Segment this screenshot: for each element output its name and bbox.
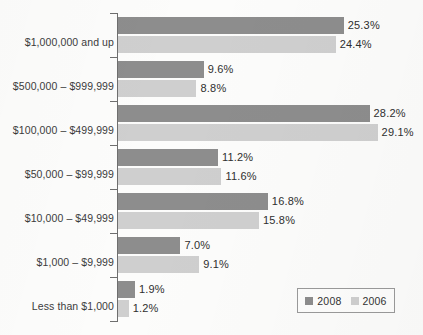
- bar-2008: [118, 149, 218, 166]
- legend-swatch-icon: [351, 297, 359, 305]
- bar-2008: [118, 105, 370, 122]
- bar-value-2006: 15.8%: [263, 214, 295, 226]
- bar-value-2008: 11.2%: [222, 151, 253, 163]
- bar-2008: [118, 281, 135, 298]
- bar-value-2008: 16.8%: [272, 195, 304, 207]
- bar-value-2006: 11.6%: [225, 170, 256, 182]
- axis-tick: [110, 57, 117, 58]
- bar-2006: [118, 80, 196, 97]
- category-label: $10,000 – $49,999: [0, 212, 114, 224]
- bar-value-2006: 1.2%: [133, 302, 159, 314]
- category-label: $1,000,000 and up: [0, 36, 114, 48]
- legend-entry-2006: 2006: [351, 295, 387, 307]
- axis-tick: [110, 145, 117, 146]
- bar-2006: [118, 124, 378, 141]
- bar-2008: [118, 61, 204, 78]
- category-label: $100,000 – $499,999: [0, 124, 114, 136]
- bar-2006: [118, 168, 221, 185]
- bar-value-2006: 29.1%: [382, 126, 414, 138]
- bar-value-2008: 7.0%: [184, 239, 210, 251]
- legend-label: 2008: [317, 295, 341, 307]
- legend-swatch-icon: [305, 297, 313, 305]
- category-label: $50,000 – $99,999: [0, 168, 114, 180]
- axis-tick: [110, 277, 117, 278]
- bar-value-2006: 24.4%: [340, 38, 372, 50]
- bar-value-2008: 9.6%: [208, 63, 234, 75]
- bar-2008: [118, 237, 180, 254]
- axis-tick: [110, 13, 117, 14]
- category-label: Less than $1,000: [0, 300, 114, 312]
- legend-label: 2006: [363, 295, 387, 307]
- bar-value-2006: 9.1%: [203, 258, 229, 270]
- axis-tick: [110, 101, 117, 102]
- bar-2008: [118, 17, 344, 34]
- bar-2006: [118, 256, 199, 273]
- bar-2008: [118, 193, 268, 210]
- bar-2006: [118, 212, 259, 229]
- bar-value-2008: 28.2%: [374, 107, 406, 119]
- bar-value-2008: 1.9%: [139, 283, 165, 295]
- legend-entry-2008: 2008: [305, 295, 341, 307]
- bar-2006: [118, 300, 129, 317]
- bar-2006: [118, 36, 336, 53]
- legend: 2008 2006: [297, 288, 395, 313]
- category-label: $1,000 – $9,999: [0, 256, 114, 268]
- axis-tick: [110, 189, 117, 190]
- bar-chart: $1,000,000 and up 25.3% 24.4% $500,000 –…: [0, 0, 423, 335]
- axis-tick: [110, 233, 117, 234]
- bar-value-2006: 8.8%: [200, 82, 226, 94]
- axis-tick: [110, 321, 117, 322]
- bar-value-2008: 25.3%: [348, 19, 380, 31]
- category-label: $500,000 – $999,999: [0, 80, 114, 92]
